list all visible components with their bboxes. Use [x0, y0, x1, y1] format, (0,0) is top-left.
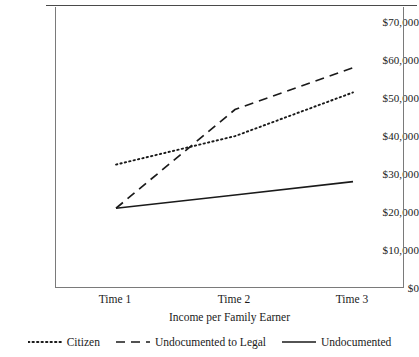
plot-area [55, 7, 404, 288]
legend-item: Undocumented to Legal [116, 335, 266, 349]
legend-item: Undocumented [282, 335, 391, 349]
chart-figure: $70,000$60,000$50,000$40,000$30,000$20,0… [0, 0, 419, 357]
header-divider [46, 5, 417, 6]
legend-swatch-dotted [28, 338, 62, 346]
x-axis-title: Income per Family Earner [55, 310, 404, 324]
legend-swatch-solid [282, 338, 316, 346]
plot-lines [56, 7, 405, 288]
series-line [116, 68, 353, 209]
legend-label: Undocumented [321, 335, 391, 349]
series-line [116, 92, 353, 164]
x-axis-tick-label: Time 2 [218, 292, 251, 306]
legend-item: Citizen [28, 335, 100, 349]
x-axis-tick-label: Time 1 [99, 292, 132, 306]
x-axis-tick-labels: Time 1Time 2Time 3 [55, 292, 404, 310]
legend-label: Citizen [67, 335, 100, 349]
legend-swatch-dashed [116, 338, 150, 346]
legend-label: Undocumented to Legal [155, 335, 266, 349]
series-line [116, 182, 353, 209]
x-axis-tick-label: Time 3 [336, 292, 369, 306]
chart-legend: CitizenUndocumented to LegalUndocumented [0, 331, 419, 353]
